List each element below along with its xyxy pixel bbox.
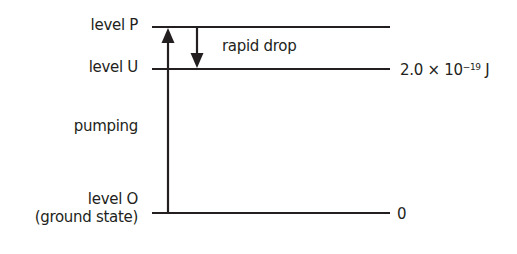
- level-u-label: level U: [89, 58, 138, 76]
- energy-level-diagram: level P level U pumping level O (ground …: [0, 0, 517, 254]
- level-p-label: level P: [91, 16, 138, 34]
- energy-mantissa: 2.0 × 10: [400, 61, 463, 79]
- energy-unit: J: [481, 61, 490, 79]
- rapid-drop-arrow-head: [191, 53, 204, 68]
- ground-state-label: (ground state): [35, 208, 138, 226]
- pumping-arrow-head: [162, 28, 175, 43]
- level-u-energy: 2.0 × 10−19 J: [400, 61, 489, 79]
- pumping-label: pumping: [74, 117, 138, 135]
- level-o-energy: 0: [397, 205, 406, 223]
- energy-exponent: −19: [463, 62, 481, 72]
- rapid-drop-label: rapid drop: [222, 37, 296, 55]
- level-o-label: level O: [88, 190, 138, 208]
